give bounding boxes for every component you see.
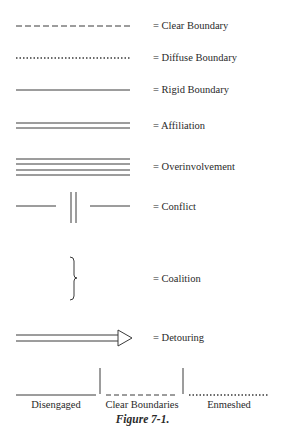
conflict-label: = Conflict (153, 201, 196, 213)
detouring-label: = Detouring (153, 332, 204, 344)
enmeshed-label: Enmeshed (189, 399, 269, 411)
rigid-boundary-label: = Rigid Boundary (153, 84, 229, 96)
affiliation-symbol (16, 123, 130, 128)
coalition-brace-symbol (70, 257, 77, 300)
affiliation-label: = Affiliation (153, 120, 205, 132)
detouring-symbol (16, 330, 132, 346)
diffuse-boundary-label: = Diffuse Boundary (153, 52, 237, 64)
figure-caption: Figure 7-1. (0, 413, 285, 425)
overinvolvement-label: = Overinvolvement (153, 161, 235, 173)
boundary-continuum (16, 368, 268, 395)
conflict-symbol (16, 192, 130, 223)
legend-symbols (0, 0, 285, 446)
clear-boundary-label: = Clear Boundary (153, 20, 228, 32)
disengaged-label: Disengaged (16, 399, 96, 411)
clear-boundaries-label: Clear Boundaries (102, 399, 182, 411)
overinvolvement-symbol (16, 159, 130, 175)
coalition-label: = Coalition (153, 273, 201, 285)
